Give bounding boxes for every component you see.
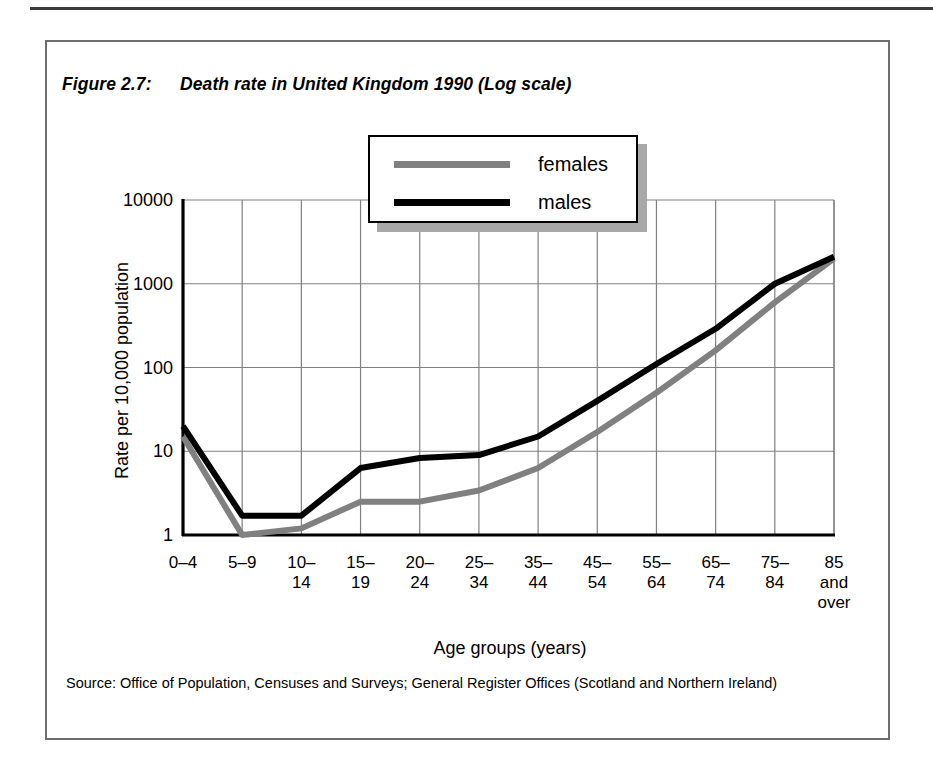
x-tick-label: 85 and over	[802, 553, 866, 613]
chart-legend: femalesmales	[368, 135, 638, 223]
x-tick-label: 25– 34	[447, 553, 511, 593]
x-tick-label: 0–4	[151, 553, 215, 573]
x-tick-label: 20– 24	[388, 553, 452, 593]
x-tick-label: 15– 19	[329, 553, 393, 593]
legend-item-females[interactable]: females	[370, 147, 636, 181]
x-tick-label: 45– 54	[565, 553, 629, 593]
y-tick-label: 10000	[87, 191, 173, 209]
figure-number: Figure 2.7:	[62, 74, 180, 95]
legend-swatch-icon	[394, 161, 510, 168]
legend-label: females	[538, 154, 608, 174]
legend-label: males	[538, 192, 591, 212]
x-tick-label: 75– 84	[743, 553, 807, 593]
x-tick-label: 5–9	[210, 553, 274, 573]
x-tick-label: 55– 64	[624, 553, 688, 593]
y-tick-label: 100	[87, 359, 173, 377]
x-axis-title: Age groups (years)	[350, 638, 670, 659]
x-tick-label: 35– 44	[506, 553, 570, 593]
source-note: Source: Office of Population, Censuses a…	[66, 675, 777, 691]
legend-item-males[interactable]: males	[370, 185, 636, 219]
x-tick-label: 10– 14	[269, 553, 333, 593]
page-top-rule	[30, 7, 933, 10]
legend-swatch-icon	[394, 199, 510, 206]
y-tick-label: 1000	[87, 275, 173, 293]
y-tick-label: 1	[87, 526, 173, 544]
figure-title-text: Death rate in United Kingdom 1990 (Log s…	[180, 74, 572, 94]
figure-title: Figure 2.7:Death rate in United Kingdom …	[62, 74, 572, 95]
y-tick-label: 10	[87, 442, 173, 460]
x-tick-label: 65– 74	[684, 553, 748, 593]
